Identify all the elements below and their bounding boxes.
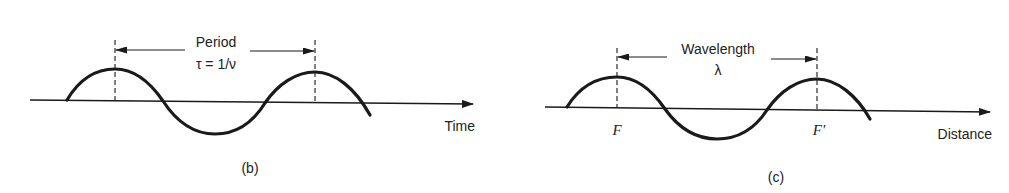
period-label: Period [196, 34, 236, 50]
time-axis-label: Time [444, 118, 475, 134]
point-label-f: F [611, 122, 622, 138]
distance-axis-label: Distance [938, 126, 993, 142]
panel-b-caption: (b) [241, 160, 258, 176]
wave-diagram: Period τ = 1/ν Time (b) Wavelength λ F F… [0, 0, 1009, 193]
period-formula-label: τ = 1/ν [196, 56, 236, 72]
panel-b-time-wave: Period τ = 1/ν Time (b) [30, 34, 475, 176]
wavelength-label: Wavelength [681, 41, 754, 57]
lambda-symbol-label: λ [715, 62, 722, 78]
panel-c-distance-wave: Wavelength λ F F′ Distance (c) [545, 41, 992, 185]
panel-c-caption: (c) [768, 169, 784, 185]
point-label-f-prime: F′ [812, 122, 826, 138]
time-axis [30, 100, 473, 104]
